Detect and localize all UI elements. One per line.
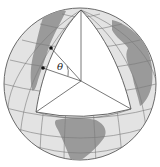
surface-point-lower <box>41 66 45 70</box>
globe-svg <box>0 0 160 167</box>
surface-point-upper <box>49 46 53 50</box>
globe-figure: θ <box>0 0 160 167</box>
theta-label: θ <box>57 61 63 72</box>
